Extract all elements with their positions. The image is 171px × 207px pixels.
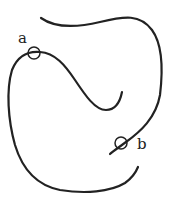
label-b: b: [137, 137, 147, 152]
curve-upper: [41, 18, 162, 154]
curve-lower: [8, 52, 138, 192]
label-a: a: [18, 31, 27, 46]
curves-diagram: a b: [0, 0, 171, 207]
